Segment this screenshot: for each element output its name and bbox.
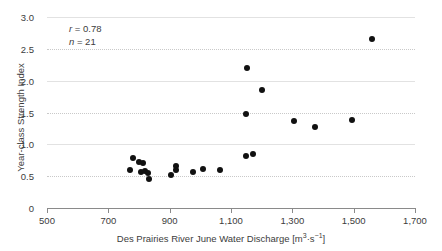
gridline — [47, 81, 415, 82]
data-point — [127, 167, 133, 173]
data-point — [312, 124, 318, 130]
x-axis-label-exponent-2: −1 — [315, 232, 323, 239]
x-axis-label-mid: ·s — [307, 233, 315, 244]
x-axis-tick-label: 1,300 — [280, 215, 304, 226]
gridline — [47, 17, 415, 18]
data-point — [369, 36, 375, 42]
data-point — [217, 167, 223, 173]
y-axis-tick-label: 2.5 — [8, 43, 34, 54]
data-point — [173, 167, 179, 173]
data-point — [243, 111, 249, 117]
gridline — [47, 176, 415, 177]
data-point — [140, 160, 146, 166]
x-axis-tick — [354, 208, 355, 213]
data-point — [250, 151, 256, 157]
plot-area — [47, 17, 415, 208]
y-axis-tick-label: 3.0 — [8, 12, 34, 23]
x-axis-tick-label: 500 — [39, 215, 55, 226]
x-axis-tick — [108, 208, 109, 213]
y-axis-tick-label: 2.0 — [8, 75, 34, 86]
x-axis-tick-label: 1,500 — [342, 215, 366, 226]
x-axis-tick — [170, 208, 171, 213]
data-point — [146, 176, 152, 182]
x-axis-tick — [415, 208, 416, 213]
data-point — [291, 118, 297, 124]
scatter-plot-figure: Year-class Strength Index r = 0.78 n = 2… — [0, 0, 442, 251]
x-axis-label-suffix: ] — [323, 233, 326, 244]
x-axis-tick-label: 900 — [162, 215, 178, 226]
x-axis-tick-label: 700 — [100, 215, 116, 226]
data-point — [200, 166, 206, 172]
y-axis-tick-label: 0 — [8, 203, 34, 214]
data-point — [349, 117, 355, 123]
x-axis-tick-label: 1,100 — [219, 215, 243, 226]
data-point — [244, 65, 250, 71]
x-axis-label: Des Prairies River June Water Discharge … — [0, 232, 442, 244]
gridline — [47, 144, 415, 145]
data-point — [243, 153, 249, 159]
x-axis-tick — [231, 208, 232, 213]
gridline — [47, 49, 415, 50]
y-axis-tick-label: 1.0 — [8, 139, 34, 150]
x-axis-tick-label: 1,700 — [403, 215, 427, 226]
data-point — [190, 169, 196, 175]
x-axis-tick — [292, 208, 293, 213]
y-axis-tick-label: 0.5 — [8, 171, 34, 182]
gridline — [47, 113, 415, 114]
x-axis-tick — [47, 208, 48, 213]
x-axis-label-text: Des Prairies River June Water Discharge … — [117, 233, 303, 244]
data-point — [259, 87, 265, 93]
y-axis-tick-label: 1.5 — [8, 107, 34, 118]
